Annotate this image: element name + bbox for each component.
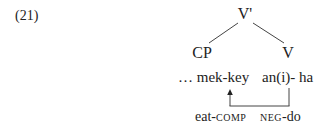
- gloss-category-comp: COMP: [216, 109, 246, 124]
- gloss-category-neg: NEG: [260, 109, 282, 124]
- word-ani-ha: an(i)- ha: [262, 70, 313, 85]
- word-mek-key: … mek-key: [178, 70, 249, 85]
- tree-node-vbar: V': [238, 6, 252, 22]
- branch-vbar-cp: [209, 23, 238, 43]
- gloss-eat-comp: eat-COMP: [195, 110, 246, 124]
- branch-vbar-v: [253, 23, 284, 43]
- gloss-stem-eat: eat-: [195, 109, 216, 124]
- gloss-neg-do: NEG-do: [260, 110, 301, 124]
- arrow-up-icon: [227, 89, 233, 95]
- movement-arrow: [227, 88, 289, 106]
- tree-node-v: V: [282, 45, 294, 61]
- example-number: (21): [15, 9, 38, 23]
- tree-node-cp: CP: [192, 45, 212, 61]
- gloss-stem-do: -do: [282, 109, 301, 124]
